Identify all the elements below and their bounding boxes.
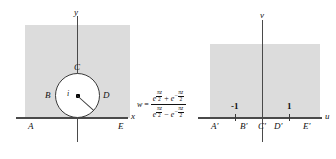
z-plane-label-A: A: [28, 122, 34, 131]
num-operator: +: [164, 94, 169, 103]
formula-fraction: eπz2 + e−πz2 eπz2 − e−πz2: [151, 90, 186, 119]
w-plane-label-E: E': [303, 122, 310, 131]
w-plane-u-axis: [198, 117, 322, 119]
den-term1-exp-den: 2: [156, 113, 162, 119]
mapping-formula: w = eπz2 + e−πz2 eπz2 − e−πz2: [137, 90, 186, 119]
conformal-mapping-figure: y x A B C D E i w = eπz2 + e−πz2 eπz2 − …: [0, 0, 336, 159]
z-plane-label-D: D: [103, 91, 110, 100]
w-plane-shaded-region: [210, 44, 320, 118]
w-plane-label-D: D': [274, 122, 282, 131]
w-plane-tick-plus-one: [289, 114, 290, 121]
num-term2-exp-den: 2: [178, 97, 184, 103]
w-plane-tick-label-plus-one: 1: [287, 102, 292, 111]
den-operator: −: [164, 110, 169, 119]
formula-equals: =: [144, 101, 149, 109]
z-plane-center-label: i: [67, 90, 69, 98]
num-term1-exp-den: 2: [156, 97, 162, 103]
w-plane-tick-label-minus-one: -1: [231, 102, 239, 111]
formula-numerator: eπz2 + e−πz2: [151, 90, 186, 104]
formula-lhs: w: [137, 101, 142, 109]
den-term2-exp-den: 2: [178, 113, 184, 119]
w-plane-tick-minus-one: [235, 114, 236, 121]
w-plane-label-B: B': [240, 122, 247, 131]
z-plane-label-C: C: [74, 63, 80, 72]
w-plane-label-A: A': [211, 122, 218, 131]
w-plane-u-axis-label: u: [325, 112, 330, 121]
w-plane-v-axis-label: v: [260, 11, 264, 20]
z-plane-label-B: B: [45, 91, 51, 100]
w-plane-label-C: C': [258, 122, 266, 131]
z-plane-label-E: E: [118, 122, 124, 131]
z-plane-y-axis-label: y: [74, 8, 78, 17]
formula-denominator: eπz2 − e−πz2: [151, 104, 186, 119]
z-plane-x-axis-label: x: [131, 112, 135, 121]
